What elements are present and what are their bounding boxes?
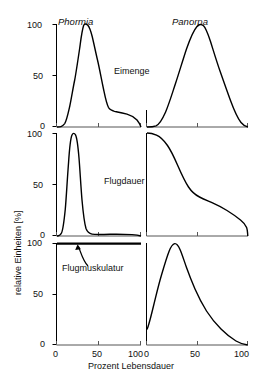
curve-phormia-eimenge [57, 24, 141, 127]
y-ticks-r1-left [53, 25, 57, 127]
y-ticks-r2-left [53, 134, 57, 236]
y-ticks-r3-left [53, 244, 57, 345]
x-ticks-r3-right [147, 341, 248, 345]
curve-panorpa-flugdauer [147, 133, 248, 236]
annotation-arrowhead-flugmuskulatur [75, 244, 81, 250]
x-ticks-r2-right [147, 232, 248, 236]
plot-canvas [0, 0, 261, 373]
curve-phormia-flugdauer [57, 133, 141, 236]
x-ticks-r1-right [147, 123, 248, 127]
x-ticks-r3-left [57, 341, 141, 345]
curve-panorpa-eimenge [147, 25, 248, 127]
curve-panorpa-flugmuskulatur [147, 244, 248, 345]
figure-container: relative Einheiten [%] Phormia Panorpa E… [0, 0, 261, 373]
x-ticks-r1-left [57, 123, 141, 127]
